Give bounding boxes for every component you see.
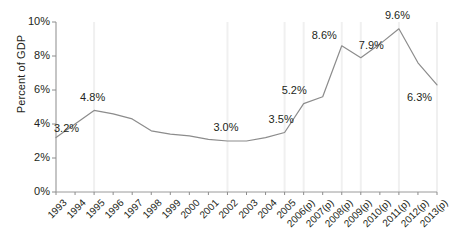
data-point-label: 8.6% (312, 29, 337, 41)
data-point-label: 3.5% (269, 113, 294, 125)
data-point-label: 6.3% (407, 91, 432, 103)
x-axis-ticks (56, 192, 437, 195)
data-point-label: 3.2% (54, 122, 79, 134)
data-point-label: 9.6% (385, 9, 410, 21)
data-point-label: 7.9% (359, 39, 384, 51)
data-point-label: 5.2% (282, 84, 307, 96)
data-point-label: 3.0% (213, 121, 238, 133)
data-point-label: 4.8% (80, 91, 105, 103)
